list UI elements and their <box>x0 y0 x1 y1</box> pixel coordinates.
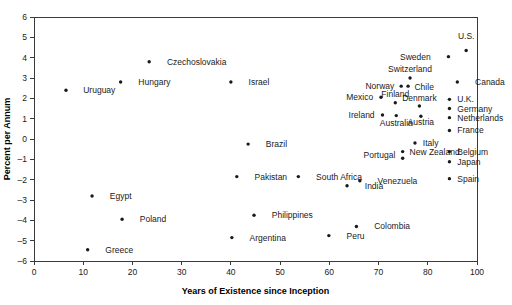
y-tick-label: 2 <box>22 93 27 103</box>
data-point: Pakistan <box>235 172 287 182</box>
data-point-marker <box>413 141 416 144</box>
data-point-marker <box>448 107 451 110</box>
y-tick-label: 5 <box>22 32 27 42</box>
data-point: Greece <box>86 245 134 255</box>
data-point-label: Belgium <box>457 147 488 157</box>
data-point-label: Czechoslovakia <box>167 57 227 67</box>
data-point-label: New Zealand <box>410 147 460 157</box>
x-tick-label: 0 <box>32 267 37 277</box>
data-point: Czechoslovakia <box>147 57 226 67</box>
y-axis-ticks: 6543210–1–2–3–4–5–6 <box>18 12 34 266</box>
x-tick-label: 20 <box>128 267 138 277</box>
data-point-label: Egypt <box>110 191 132 201</box>
y-tick-label: –6 <box>18 256 28 266</box>
x-tick-label: 50 <box>275 267 285 277</box>
data-point: Hungary <box>119 77 171 87</box>
y-tick-label: 6 <box>22 12 27 22</box>
data-point: Argentina <box>230 233 286 243</box>
data-point-marker <box>252 214 255 217</box>
y-tick-label: –1 <box>18 154 28 164</box>
data-point-marker <box>297 175 300 178</box>
data-point-label: Venezuela <box>378 176 418 186</box>
x-axis-ticks: 01020304050607080100 <box>32 261 485 277</box>
y-tick-label: –5 <box>18 236 28 246</box>
data-point-marker <box>120 218 123 221</box>
data-point-marker <box>235 175 238 178</box>
data-point: Peru <box>327 231 365 241</box>
data-point-label: Portugal <box>364 150 396 160</box>
data-point-label: South Africa <box>316 172 362 182</box>
data-point: Netherlands <box>448 113 503 123</box>
data-point: Philippines <box>252 210 313 220</box>
data-point-marker <box>456 80 459 83</box>
data-point: Mexico <box>346 92 383 102</box>
data-point-label: Poland <box>140 214 167 224</box>
data-point-marker <box>355 225 358 228</box>
data-point-label: Ireland <box>349 110 375 120</box>
y-axis-title: Percent per Annum <box>2 98 12 181</box>
data-point-label: Japan <box>457 157 480 167</box>
y-tick-label: 1 <box>22 114 27 124</box>
data-point-label: Chile <box>414 82 434 92</box>
data-point: Switzerland <box>388 64 432 79</box>
data-point-marker <box>401 157 404 160</box>
data-point-marker <box>401 150 404 153</box>
data-point-marker <box>406 84 409 87</box>
data-point: Uruguay <box>64 85 116 95</box>
data-point-marker <box>327 234 330 237</box>
y-tick-label: 3 <box>22 73 27 83</box>
data-point-label: Colombia <box>374 221 410 231</box>
data-point-marker <box>448 150 451 153</box>
data-point-label: Denmark <box>402 93 437 103</box>
x-tick-label: 60 <box>325 267 335 277</box>
data-point-label: Brazil <box>266 139 287 149</box>
data-point-label: U.S. <box>458 31 475 41</box>
x-tick-label: 30 <box>177 267 187 277</box>
data-point-marker <box>394 101 397 104</box>
data-point: India <box>345 181 383 191</box>
data-point: Egypt <box>90 191 132 201</box>
data-point-marker <box>408 76 411 79</box>
data-point: Portugal <box>364 150 405 160</box>
data-point: U.S. <box>458 31 475 52</box>
x-tick-label: 80 <box>423 267 433 277</box>
data-point-marker <box>395 114 398 117</box>
x-tick-label: 10 <box>78 267 88 277</box>
y-tick-label: –2 <box>18 175 28 185</box>
data-point: South Africa <box>297 172 363 182</box>
data-point-marker <box>418 104 421 107</box>
data-point-marker <box>64 89 67 92</box>
y-tick-label: –3 <box>18 195 28 205</box>
x-tick-label: 70 <box>374 267 384 277</box>
data-point: Israel <box>229 77 269 87</box>
data-point: Japan <box>448 157 481 167</box>
data-point-label: Philippines <box>272 210 313 220</box>
data-point: Canada <box>456 77 505 87</box>
data-point-marker <box>90 194 93 197</box>
x-axis-title: Years of Existence since Inception <box>182 286 330 296</box>
data-point-label: Hungary <box>138 77 171 87</box>
data-point-group: UruguayHungaryCzechoslovakiaIsraelBrazil… <box>64 31 505 255</box>
y-tick-label: 4 <box>22 53 27 63</box>
y-tick-label: –4 <box>18 215 28 225</box>
data-point: Brazil <box>246 139 287 149</box>
x-tick-label: 100 <box>470 267 484 277</box>
data-point: Sweden <box>400 52 450 62</box>
data-point-label: Austria <box>408 117 435 127</box>
data-point-label: Peru <box>347 231 365 241</box>
data-point: Austria <box>408 115 435 128</box>
data-point-marker <box>448 177 451 180</box>
data-point: Poland <box>120 214 166 224</box>
data-point-label: Mexico <box>346 92 373 102</box>
data-point-label: Switzerland <box>388 64 432 74</box>
data-point-label: Israel <box>249 77 270 87</box>
data-point-label: Argentina <box>250 233 287 243</box>
data-point-label: India <box>365 181 384 191</box>
data-point-marker <box>246 142 249 145</box>
data-point-marker <box>448 116 451 119</box>
scatter-chart: 01020304050607080100 6543210–1–2–3–4–5–6… <box>0 0 512 305</box>
data-point-label: Greece <box>105 245 133 255</box>
data-point-label: Sweden <box>400 52 431 62</box>
data-point-label: Uruguay <box>83 85 116 95</box>
data-point-label: Netherlands <box>457 113 503 123</box>
